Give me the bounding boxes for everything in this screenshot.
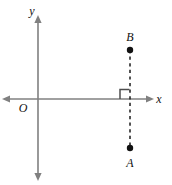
y-axis-arrow-down-icon — [34, 173, 41, 181]
y-axis-label: y — [28, 4, 35, 18]
origin-label: O — [19, 101, 28, 115]
y-axis-arrow-up-icon — [34, 15, 41, 23]
coordinate-plane-figure: B A x y O — [0, 0, 172, 185]
right-angle-marker — [120, 90, 129, 100]
x-axis-arrow-left-icon — [2, 95, 10, 102]
point-a-label: A — [125, 156, 134, 170]
point-b-label: B — [126, 30, 134, 44]
point-a-dot — [127, 145, 133, 151]
x-axis-arrow-right-icon — [146, 95, 154, 102]
x-axis-label: x — [155, 92, 162, 106]
y-axis — [34, 15, 41, 181]
figure-canvas: B A x y O — [0, 0, 172, 185]
point-b-dot — [127, 47, 133, 53]
